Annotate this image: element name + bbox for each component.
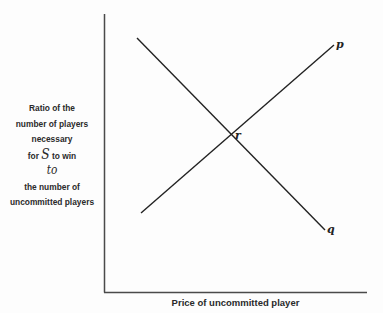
y-label-line: Ratio of the [6, 100, 98, 116]
y-label-line: for S to win [6, 147, 98, 164]
y-label-for: for [28, 150, 39, 161]
label-p: p [336, 38, 344, 51]
y-axis-label: Ratio of the number of players necessary… [6, 100, 98, 210]
label-q: q [327, 223, 335, 236]
y-label-to-win: to win [52, 150, 76, 161]
y-label-line: number of players [6, 116, 98, 132]
y-label-line: the number of [6, 179, 98, 195]
y-label-line: necessary [6, 131, 98, 147]
y-label-line: uncommitted players [6, 194, 98, 210]
label-r: r [235, 129, 241, 142]
line-q [137, 38, 325, 230]
y-label-symbol-s: S [41, 146, 49, 162]
y-label-to: to [6, 163, 98, 179]
x-axis-label: Price of uncommitted player [104, 297, 367, 308]
